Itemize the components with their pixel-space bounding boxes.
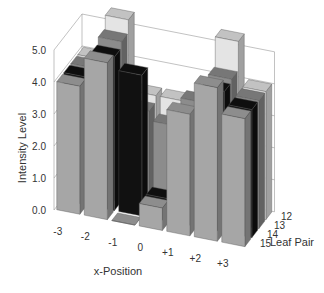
bar-side bbox=[266, 84, 272, 220]
bars bbox=[57, 8, 272, 247]
x-tick-label: -2 bbox=[81, 231, 90, 242]
y-tick-label: 5.0 bbox=[32, 45, 46, 56]
bar-side bbox=[245, 111, 251, 247]
z-axis-label: Leaf Pair bbox=[270, 236, 314, 248]
x-tick-label: +2 bbox=[190, 253, 202, 264]
y-tick-label: 4.0 bbox=[32, 77, 46, 88]
y-tick-label: 2.0 bbox=[32, 141, 46, 152]
bar-side bbox=[252, 102, 258, 238]
bar-front bbox=[57, 82, 80, 215]
x-tick-label: -1 bbox=[108, 237, 117, 248]
bar-front bbox=[194, 83, 217, 241]
y-tick-label: 1.0 bbox=[32, 173, 46, 184]
y-tick-label: 0.0 bbox=[32, 205, 46, 216]
bar-front bbox=[84, 58, 107, 219]
x-tick-label: +3 bbox=[217, 258, 229, 269]
y-axis-label: Intensity Level bbox=[16, 113, 28, 183]
bar-front bbox=[119, 71, 142, 216]
x-tick-label: 0 bbox=[137, 242, 143, 253]
y-tick-label: 3.0 bbox=[32, 109, 46, 120]
y-axis-ticks: 0.01.02.03.04.05.0 bbox=[32, 45, 46, 216]
bar-front bbox=[222, 114, 245, 247]
x-tick-label: -3 bbox=[53, 226, 62, 237]
bar-front bbox=[167, 110, 190, 236]
bar-front bbox=[139, 204, 162, 231]
bar-side bbox=[107, 55, 113, 219]
x-tick-label: +1 bbox=[162, 247, 174, 258]
bar-chart-3d: 0.01.02.03.04.05.0 -3-2-10+1+2+3 1213141… bbox=[0, 0, 324, 293]
bar-side bbox=[259, 93, 265, 229]
x-axis-label: x-Position bbox=[94, 265, 142, 277]
